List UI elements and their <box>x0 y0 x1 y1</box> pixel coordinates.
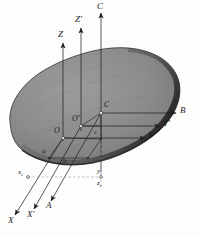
marker-point-C <box>99 111 102 114</box>
axis-label-C-axis: C <box>97 2 103 11</box>
marker-origin-O-prime <box>80 125 83 128</box>
figure-canvas: Z Z' C B Y' Y X X' A O O' C c a b xc yc … <box>0 0 200 236</box>
point-label-a: a <box>42 148 46 155</box>
projection-label-xc: xc <box>18 169 23 178</box>
axis-label-X-prime: X' <box>27 210 34 219</box>
point-label-b: b <box>63 158 67 165</box>
origin-label-O-prime: O' <box>72 115 80 123</box>
origin-label-O: O <box>54 127 60 135</box>
diagram-svg <box>0 0 200 236</box>
marker-proj-xc <box>27 176 30 179</box>
point-label-c: c <box>94 129 97 136</box>
axis-label-B: B <box>180 106 186 115</box>
point-label-C: C <box>104 101 109 109</box>
proj-xc-subscript: c <box>21 172 23 177</box>
marker-point-a <box>48 157 50 159</box>
axis-label-Z-prime: Z' <box>75 15 82 24</box>
axis-label-A: A <box>46 201 52 210</box>
proj-zc-subscript: c <box>100 183 102 188</box>
marker-origin-O <box>62 137 65 140</box>
projection-label-zc: zc <box>97 180 102 189</box>
proj-yc-subscript: c <box>100 171 102 176</box>
axis-label-Y-prime: Y' <box>163 119 170 128</box>
marker-point-b <box>87 157 89 159</box>
axis-label-Y: Y <box>148 131 153 140</box>
axis-label-X: X <box>8 216 14 225</box>
axis-label-Z: Z <box>58 30 63 39</box>
projection-label-yc: yc <box>97 168 102 177</box>
irregular-rigid-body-blob <box>10 48 180 165</box>
marker-point-c <box>100 138 102 140</box>
